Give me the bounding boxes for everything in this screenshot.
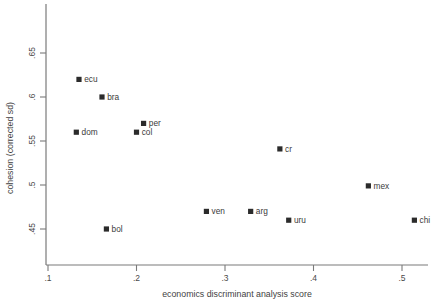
point-marker <box>286 218 291 223</box>
point-marker <box>366 183 371 188</box>
point-label: bol <box>112 224 123 234</box>
data-point: bol <box>104 224 123 234</box>
x-axis-title: economics discriminant analysis score <box>162 289 312 299</box>
y-tick-label: .45 <box>27 223 37 235</box>
data-point: uru <box>286 215 306 225</box>
x-tick-label: .2 <box>133 273 140 283</box>
point-label: arg <box>256 206 268 216</box>
data-point: cr <box>277 144 292 154</box>
point-marker <box>134 130 139 135</box>
y-tick-label: .5 <box>27 181 37 188</box>
point-marker <box>248 209 253 214</box>
x-axis-ticks: .1.2.3.4.5 <box>44 265 405 283</box>
point-marker <box>141 121 146 126</box>
x-tick-label: .4 <box>310 273 317 283</box>
point-marker <box>74 130 79 135</box>
data-point: ecu <box>76 74 98 84</box>
point-marker <box>99 94 104 99</box>
y-tick-label: .6 <box>27 93 37 100</box>
data-point: arg <box>248 206 268 216</box>
x-tick-label: .1 <box>44 273 51 283</box>
point-label: chi <box>420 215 431 225</box>
y-tick-label: .55 <box>27 135 37 147</box>
point-label: col <box>142 127 153 137</box>
x-tick-label: .5 <box>398 273 405 283</box>
point-label: dom <box>82 127 98 137</box>
y-tick-label: .65 <box>27 47 37 59</box>
point-label: mex <box>374 181 391 191</box>
point-marker <box>204 209 209 214</box>
axes <box>46 4 428 265</box>
point-marker <box>76 77 81 82</box>
point-label: bra <box>107 92 119 102</box>
scatter-plot-figure: .1.2.3.4.5 .65.6.55.5.45 ecubradompercol… <box>0 0 435 306</box>
plot-canvas: .1.2.3.4.5 .65.6.55.5.45 ecubradompercol… <box>0 0 435 306</box>
point-marker <box>412 218 417 223</box>
point-marker <box>104 226 109 231</box>
data-point: col <box>134 127 153 137</box>
y-axis-title: cohesion (corrected sd) <box>5 102 15 194</box>
data-points: ecubradompercolcrmexvenargurubolchi <box>74 74 431 234</box>
point-marker <box>277 146 282 151</box>
data-point: bra <box>99 92 119 102</box>
data-point: dom <box>74 127 98 137</box>
data-point: mex <box>366 181 390 191</box>
data-point: chi <box>412 215 431 225</box>
y-axis-ticks: .65.6.55.5.45 <box>27 47 46 235</box>
point-label: cr <box>285 144 292 154</box>
x-tick-label: .3 <box>221 273 228 283</box>
point-label: ven <box>212 206 226 216</box>
point-label: ecu <box>84 74 98 84</box>
point-label: uru <box>294 215 306 225</box>
data-point: ven <box>204 206 226 216</box>
